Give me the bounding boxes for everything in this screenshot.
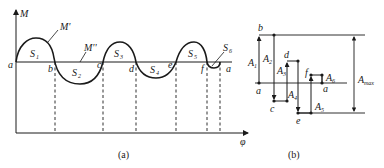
area-s4: S 4 xyxy=(150,64,159,76)
label-a4: A 4 xyxy=(287,89,297,101)
point-e-label: e xyxy=(296,115,301,126)
svg-text:max: max xyxy=(364,80,374,86)
point-a-start: a xyxy=(8,59,13,70)
label-a6: A 6 xyxy=(325,72,335,84)
baseline-m2-label: M'' xyxy=(83,42,97,53)
energy-diagram: M φ M' M'' a b c d e f a S 1 S 2 S 3 S 4… xyxy=(0,0,384,168)
point-f-label: f xyxy=(305,67,309,78)
svg-text:3: 3 xyxy=(282,71,286,77)
leader-m1 xyxy=(48,30,58,42)
label-a1: A 1 xyxy=(247,57,257,69)
area-s5: S 5 xyxy=(188,48,197,60)
label-a2: A 2 xyxy=(262,53,272,65)
point-b: b xyxy=(48,63,53,74)
point-d-label: d xyxy=(284,49,290,60)
panel-a: M φ M' M'' a b c d e f a S 1 S 2 S 3 S 4… xyxy=(8,8,248,161)
area-s1: S 1 xyxy=(30,48,39,60)
area-s2: S 2 xyxy=(72,67,81,79)
y-axis-label: M xyxy=(19,8,29,19)
leader-m2 xyxy=(80,52,86,62)
point-b-label: b xyxy=(258,22,263,33)
svg-text:1: 1 xyxy=(254,63,257,69)
area-s3: S 3 xyxy=(114,48,123,60)
svg-text:6: 6 xyxy=(229,48,232,54)
svg-text:2: 2 xyxy=(269,59,272,65)
curve-m1-label: M' xyxy=(59,21,71,32)
caption-b: (b) xyxy=(288,149,300,161)
svg-text:4: 4 xyxy=(156,70,159,76)
svg-text:5: 5 xyxy=(194,54,197,60)
svg-text:4: 4 xyxy=(294,95,297,101)
svg-text:S: S xyxy=(188,48,193,59)
svg-text:S: S xyxy=(72,67,77,78)
point-c: c xyxy=(97,59,102,70)
x-axis-label: φ xyxy=(240,136,246,147)
svg-text:1: 1 xyxy=(36,54,39,60)
point-a-end-label: a xyxy=(323,83,328,94)
svg-text:5: 5 xyxy=(321,107,324,113)
svg-text:6: 6 xyxy=(332,78,335,84)
panel-b: b a c d e f a A 1 A 2 A 3 A 4 A 5 A 6 xyxy=(247,22,374,161)
point-c-label: c xyxy=(270,103,275,114)
svg-text:3: 3 xyxy=(119,54,123,60)
svg-text:S: S xyxy=(150,64,155,75)
label-a5: A 5 xyxy=(314,101,324,113)
curve-m1 xyxy=(16,38,220,84)
point-a-label: a xyxy=(256,85,261,96)
svg-text:S: S xyxy=(223,42,228,53)
label-a3: A 3 xyxy=(276,65,286,77)
svg-text:S: S xyxy=(114,48,119,59)
node-dots xyxy=(257,33,323,114)
area-s6: S 6 xyxy=(223,42,232,54)
point-d: d xyxy=(129,63,135,74)
svg-text:S: S xyxy=(30,48,35,59)
caption-a: (a) xyxy=(118,149,129,161)
point-e: e xyxy=(168,59,173,70)
point-f: f xyxy=(201,63,205,74)
leader-s6 xyxy=(212,52,224,66)
point-a-end: a xyxy=(226,63,231,74)
label-amax: A max xyxy=(357,74,374,86)
svg-text:2: 2 xyxy=(78,73,81,79)
